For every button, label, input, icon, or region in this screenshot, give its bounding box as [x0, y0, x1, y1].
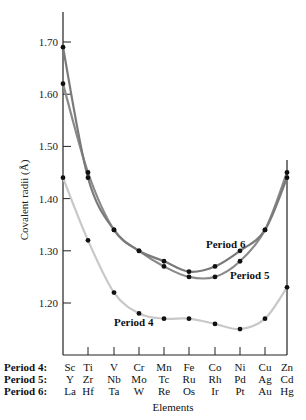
y-ticks: 1.201.301.401.501.601.70 [39, 36, 71, 309]
element-label: Ru [183, 373, 196, 385]
x-ticks [88, 347, 265, 355]
y-tick-label: 1.70 [39, 36, 59, 48]
element-label: Cr [134, 361, 145, 373]
element-label: Tc [159, 373, 170, 385]
element-label: Sc [65, 361, 76, 373]
element-label: La [64, 385, 76, 397]
data-point [285, 175, 290, 180]
element-label: Re [158, 385, 170, 397]
data-point [213, 264, 218, 269]
data-point [187, 275, 192, 280]
element-label: Y [66, 373, 74, 385]
y-tick-label: 1.30 [39, 245, 59, 257]
data-point [137, 248, 142, 253]
series-line-period-5 [63, 84, 287, 279]
element-label: Ni [235, 361, 246, 373]
element-label: Rh [209, 373, 222, 385]
data-point [238, 327, 243, 332]
element-label: Ti [83, 361, 92, 373]
data-point [112, 228, 117, 233]
data-point [162, 264, 167, 269]
data-point [213, 275, 218, 280]
covalent-radii-chart: 1.201.301.401.501.601.70 Covalent radii … [0, 0, 306, 420]
data-point [187, 269, 192, 274]
data-point [112, 290, 117, 295]
y-tick-label: 1.60 [39, 88, 59, 100]
element-label: Pd [234, 373, 246, 385]
row-title: Period 4: [4, 361, 47, 373]
element-label: Ir [211, 385, 218, 397]
data-point [285, 285, 290, 290]
element-label: Cd [281, 373, 294, 385]
data-point [61, 175, 66, 180]
data-point [162, 259, 167, 264]
element-label: Au [258, 385, 271, 397]
row-title: Period 5: [4, 373, 47, 385]
x-axis-label: Elements [0, 401, 306, 413]
y-axis-label: Covalent radii (Å) [18, 159, 31, 240]
axes [63, 12, 287, 355]
data-point [162, 316, 167, 321]
element-label: Ag [258, 373, 271, 385]
period-6-label: Period 6 [206, 238, 246, 250]
data-point [213, 321, 218, 326]
data-point [263, 228, 268, 233]
element-label: Fe [184, 361, 195, 373]
element-label: Ta [109, 385, 120, 397]
data-point [238, 259, 243, 264]
series-line-period-6 [63, 47, 287, 272]
element-label: Nb [107, 373, 120, 385]
series-lines [63, 47, 287, 329]
data-point [86, 175, 91, 180]
y-tick-label: 1.40 [39, 193, 59, 205]
element-label: Zn [281, 361, 293, 373]
data-point [187, 316, 192, 321]
element-row-period-6: Period 6:LaHfTaWReOsIrPtAuHg [0, 385, 306, 399]
data-point [61, 45, 66, 50]
y-tick-label: 1.50 [39, 140, 59, 152]
data-point [263, 316, 268, 321]
element-label: Zr [83, 373, 93, 385]
y-tick-label: 1.20 [39, 297, 59, 309]
element-label: Hf [82, 385, 94, 397]
element-label: V [110, 361, 118, 373]
data-point [86, 238, 91, 243]
element-label: Mo [131, 373, 146, 385]
element-label: Co [209, 361, 222, 373]
data-point [61, 81, 66, 86]
data-point [285, 170, 290, 175]
element-label: Hg [280, 385, 293, 397]
period-5-label: Period 5 [230, 269, 270, 281]
element-label: Os [183, 385, 195, 397]
row-title: Period 6: [4, 385, 47, 397]
data-point [86, 170, 91, 175]
element-label: W [134, 385, 144, 397]
element-label: Cu [259, 361, 272, 373]
element-label: Pt [235, 385, 244, 397]
element-label: Mn [156, 361, 171, 373]
period-4-label: Period 4 [114, 316, 154, 328]
